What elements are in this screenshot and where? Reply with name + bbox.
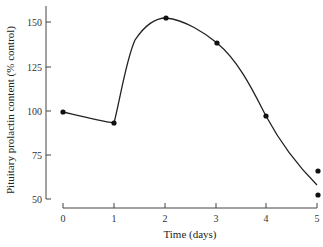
data-point [214,40,219,45]
data-point [163,15,168,20]
x-tick-label: 2 [163,213,168,224]
x-tick-label: 1 [112,213,117,224]
y-tick-label: 50 [32,194,42,205]
y-axis: 50 75 100 125 150 Pituitary prolactin co… [4,6,51,205]
x-tick-label: 0 [61,213,66,224]
y-axis-title: Pituitary prolactin content (% control) [4,26,17,194]
y-tick-label: 75 [32,150,42,161]
data-curve [63,18,317,185]
data-point [315,192,320,197]
x-tick-label: 5 [315,213,320,224]
y-tick-label: 125 [27,62,42,73]
y-tick-label: 150 [27,17,42,28]
x-axis-title: Time (days) [163,228,216,241]
data-points [60,15,320,197]
x-tick-label: 4 [264,213,269,224]
data-point [60,109,65,114]
y-tick-label: 100 [27,106,42,117]
x-axis: 0 1 2 3 4 5 Time (days) [61,203,320,241]
data-point [315,168,320,173]
chart: 50 75 100 125 150 Pituitary prolactin co… [0,0,323,247]
x-tick-label: 3 [214,213,219,224]
data-point [263,113,268,118]
data-point [111,120,116,125]
